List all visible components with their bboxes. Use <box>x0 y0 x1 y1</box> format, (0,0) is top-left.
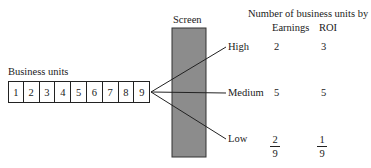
outcome-medium-label: Medium <box>228 87 264 99</box>
business-units-label: Business units <box>8 66 68 78</box>
high-earnings-value: 2 <box>274 41 279 53</box>
low-earnings-denominator: 9 <box>272 148 277 159</box>
business-unit-box: 9 <box>134 81 150 103</box>
business-unit-box: 3 <box>40 81 56 103</box>
medium-earnings-value: 5 <box>274 87 279 99</box>
medium-roi-value: 5 <box>321 87 326 99</box>
business-unit-box: 7 <box>103 81 119 103</box>
business-unit-box: 6 <box>87 81 103 103</box>
fraction-bar <box>317 146 327 147</box>
column-header-earnings: Earnings <box>272 22 309 34</box>
outcome-low-label: Low <box>228 133 247 145</box>
screen-label: Screen <box>173 14 202 26</box>
low-roi-numerator: 1 <box>319 134 324 145</box>
column-header-roi: ROI <box>319 22 337 34</box>
business-unit-box: 8 <box>119 81 135 103</box>
branch-line-medium <box>151 92 226 93</box>
table-title: Number of business units by <box>248 8 368 20</box>
low-roi-fraction: 1 9 <box>317 134 327 159</box>
fraction-bar <box>270 146 280 147</box>
high-roi-value: 3 <box>321 41 326 53</box>
outcome-high-label: High <box>228 41 249 53</box>
low-earnings-fraction: 2 9 <box>270 134 280 159</box>
business-unit-box: 5 <box>71 81 87 103</box>
business-unit-box: 4 <box>55 81 71 103</box>
low-earnings-numerator: 2 <box>272 134 277 145</box>
business-unit-box: 2 <box>24 81 40 103</box>
business-unit-box: 1 <box>8 81 24 103</box>
low-roi-denominator: 9 <box>319 148 324 159</box>
